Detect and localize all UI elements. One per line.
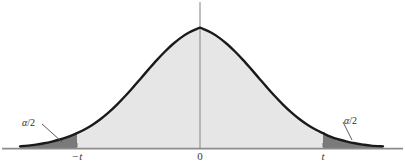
axis-label-zero: 0	[180, 151, 220, 162]
distribution-plot	[0, 0, 405, 168]
t-distribution-figure: α/2 α/2 −t 0 t	[0, 0, 405, 168]
left-alpha-over-two: /2	[27, 117, 35, 128]
axis-label-pos-t: t	[303, 151, 343, 162]
right-alpha-over-two: /2	[349, 115, 357, 126]
right-tail-alpha-label: α/2	[344, 116, 357, 126]
left-tail-alpha-label: α/2	[22, 118, 35, 128]
left-tail-leader-line	[42, 124, 62, 142]
axis-label-neg-t: −t	[57, 151, 97, 162]
